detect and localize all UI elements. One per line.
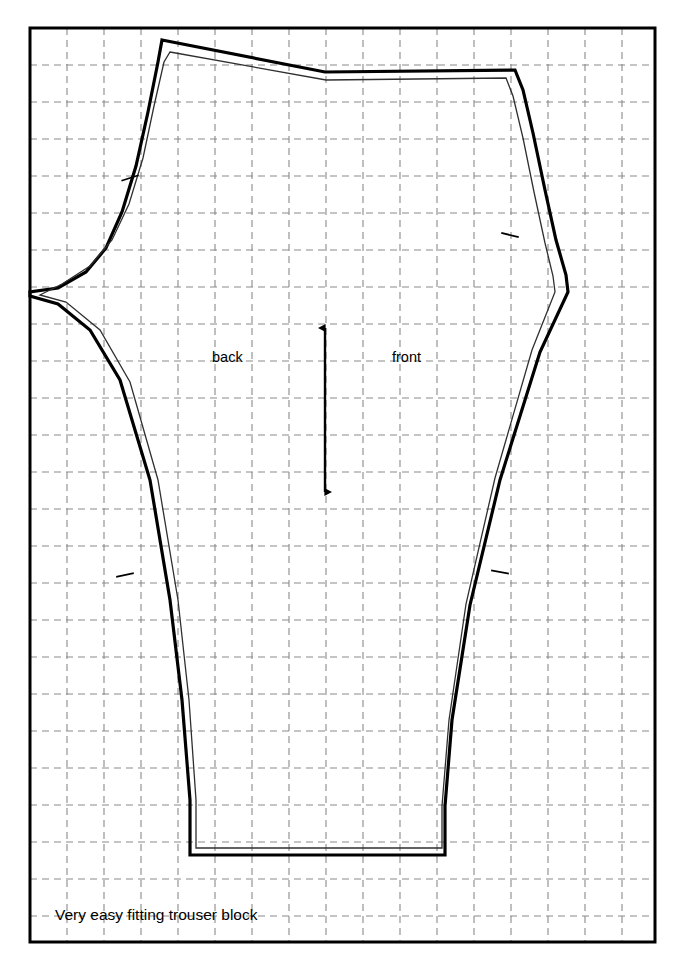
plate-caption: Very easy fitting trouser block — [55, 905, 257, 925]
trouser-block-diagram — [0, 0, 683, 972]
piece-label-front: front — [392, 348, 421, 366]
pattern-page: 186 back front Very easy fitting trouse — [0, 0, 683, 972]
piece-label-back: back — [212, 348, 243, 366]
plate-background — [0, 0, 683, 972]
